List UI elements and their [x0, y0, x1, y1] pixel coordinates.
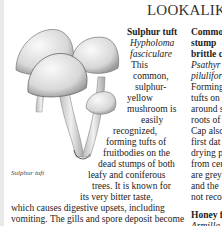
- body-line: sulphur-: [135, 82, 166, 93]
- body-line: around s: [191, 104, 222, 115]
- body-line: fruitbodies on the: [103, 148, 170, 159]
- body-line: yellow: [127, 93, 153, 104]
- body-line: Cap also: [191, 126, 222, 137]
- body-line: recognized,: [113, 126, 157, 137]
- mushroom-illustration: [10, 22, 120, 162]
- entry-latin-name-line: pilulifor: [191, 71, 222, 82]
- body-line: easily: [141, 115, 163, 126]
- body-line: are grey: [191, 170, 222, 181]
- body-line: This: [131, 60, 148, 71]
- body-line: tufts on: [191, 93, 222, 104]
- entry-common-name: Sulphur tuft: [127, 27, 187, 38]
- entry-body-continuation: which causes digestive upsets, including…: [11, 203, 186, 226]
- body-line: first dat: [191, 137, 222, 148]
- entry-sulphur-tuft-header: Sulphur tuft Hypholoma fasciculare: [127, 27, 187, 60]
- entry-common-stump-brittlecap: Common stump brittle c Psathyr pilulifor…: [191, 27, 222, 203]
- body-line: not reco: [191, 192, 222, 203]
- body-line: forming tufts of: [106, 137, 166, 148]
- body-line: Forming: [191, 82, 222, 93]
- entry-latin-name: Armilla: [191, 221, 222, 226]
- body-line: trees. It is known for: [92, 181, 171, 192]
- body-line: from cer: [191, 159, 222, 170]
- body-line: its very bitter taste,: [80, 192, 153, 203]
- entry-latin-name-line: Psathyr: [191, 60, 222, 71]
- entry-common-name-line: Common: [191, 27, 222, 38]
- body-line: common,: [133, 71, 169, 82]
- body-line: dead stumps of both: [98, 159, 175, 170]
- body-line: roots of: [191, 115, 222, 126]
- entry-latin-name-line2: fasciculare: [127, 49, 187, 60]
- body-line: and the: [191, 181, 222, 192]
- entry-latin-name-line1: Hypholoma: [127, 38, 187, 49]
- body-line: drying p: [191, 148, 222, 159]
- body-line: leafy and coniferous: [88, 170, 166, 181]
- entry-common-name-line: stump: [191, 38, 222, 49]
- entry-common-name: Honey f: [191, 210, 222, 221]
- entry-honey-fungus: Honey f Armilla: [191, 210, 222, 226]
- page-title: LOOKALIKES: [147, 2, 222, 19]
- body-line: mushroom is: [127, 104, 176, 115]
- entry-common-name-line: brittle c: [191, 49, 222, 60]
- page-gutter-rule: [0, 0, 4, 226]
- illustration-caption: Sulphur tuft: [11, 169, 44, 177]
